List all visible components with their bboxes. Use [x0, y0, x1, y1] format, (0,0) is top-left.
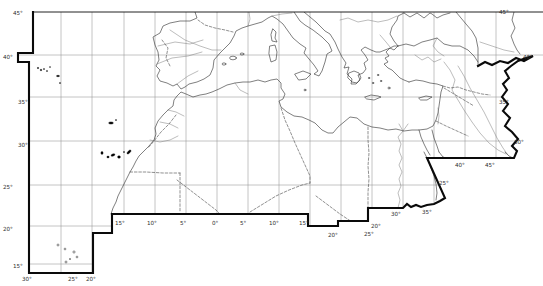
azores-island-2 [40, 69, 42, 71]
azores-island-1 [37, 67, 38, 68]
river-danube [340, 16, 397, 22]
canary-fuerteventura-lanzarote [126, 149, 131, 154]
atlantic-islands [37, 67, 131, 159]
lon-label-30e-egypt: 30° [391, 211, 401, 217]
lon-label-15w-south: 15° [115, 220, 125, 226]
cape-verde-5 [65, 261, 67, 263]
island-menorca [240, 53, 244, 55]
border-turkey-syria [443, 86, 490, 95]
river-kura [480, 42, 514, 52]
coastline-turkey-west [384, 46, 409, 82]
border-jordan-saudi [436, 121, 468, 136]
lat-label-20n-left: 20° [3, 226, 13, 232]
cape-verde-6 [70, 259, 71, 260]
river-jordan [438, 108, 439, 124]
river-morocco-2 [160, 122, 178, 128]
border-morocco-algeria [148, 115, 176, 148]
island-mallorca [230, 56, 237, 60]
lon-label-35e-egypt: 35° [422, 209, 432, 215]
map-boundary-outline [18, 12, 533, 273]
graticule-grid [0, 0, 543, 286]
geography [111, 12, 520, 214]
border-algeria-tunisia-libya [281, 108, 310, 183]
river-rhone [248, 12, 250, 26]
lon-label-25w-bottom: 25° [68, 276, 78, 282]
river-guadalquivir [177, 71, 198, 84]
coastline-black-sea-east [456, 12, 478, 66]
river-nile [398, 131, 403, 208]
lon-label-15e-south: 15° [299, 220, 309, 226]
map-frame [18, 12, 543, 273]
lon-label-40e-southeast: 40° [455, 162, 465, 168]
border-algeria-niger [250, 183, 310, 212]
lat-label-35n-left: 35° [18, 99, 28, 105]
island-cyprus [419, 96, 432, 100]
island-sicily [295, 71, 311, 80]
lat-label-40n-right: 40° [523, 54, 533, 60]
island-corsica [271, 29, 277, 42]
azores-island-7 [59, 82, 60, 83]
coastline-iberia-france-italy [153, 12, 332, 89]
lon-label-45e-southeast: 45° [485, 162, 495, 168]
border-libya-sudan-diagonal [316, 196, 352, 222]
lon-label-10e-south: 10° [269, 220, 279, 226]
lat-label-40n-left: 40° [3, 54, 13, 60]
cape-verde-2 [64, 248, 66, 250]
base-map: 45° 40° 35° 30° 25° 20° 15° 30° 25° 20° … [0, 0, 543, 286]
river-duero [158, 40, 203, 46]
porto-santo [115, 119, 116, 120]
coastline-black-sea-north [404, 13, 450, 18]
river-euphrates [444, 62, 506, 154]
azores-island-3 [43, 68, 44, 69]
coastline-adriatic-balkans [304, 12, 398, 84]
cape-verde-1 [57, 244, 59, 246]
river-anatolia-1 [415, 55, 441, 62]
coastline-caspian-west [511, 12, 520, 54]
lat-label-45n-topright: 45° [499, 9, 509, 15]
graticule-labels: 45° 40° 35° 30° 25° 20° 15° 30° 25° 20° … [3, 9, 533, 283]
azores-island-4 [46, 70, 47, 71]
island-sardinia [269, 45, 277, 62]
island-malta [304, 89, 306, 91]
coastline-black-sea-south [398, 38, 478, 62]
map-figure: 45° 40° 35° 30° 25° 20° 15° 30° 25° 20° … [0, 0, 543, 286]
lon-label-30w-bottom: 30° [22, 276, 32, 282]
river-tajo [157, 52, 202, 64]
island-rhodes [388, 87, 390, 89]
canary-tenerife [111, 153, 115, 156]
island-aegean-2 [372, 82, 373, 83]
river-kizilirmak [433, 38, 444, 56]
river-maritsa [380, 35, 390, 47]
canary-islet [123, 151, 124, 152]
canary-gomera-hierro [107, 156, 109, 158]
canary-gran-canaria [118, 156, 121, 158]
river-tigris [458, 66, 508, 155]
island-aegean-4 [380, 80, 381, 81]
cape-verde-4 [76, 256, 78, 258]
lat-label-45n-topleft: 45° [13, 10, 23, 16]
lon-label-20e-step: 20° [328, 232, 338, 238]
rivers [150, 12, 514, 208]
coastline-gulf-of-suez [419, 130, 430, 155]
lon-label-5e-south: 5° [240, 220, 247, 226]
canary-la-palma [101, 152, 103, 155]
island-aegean-1 [368, 77, 369, 78]
lat-label-15n-left: 15° [13, 263, 23, 269]
lon-label-20w-bottom: 20° [86, 276, 96, 282]
border-pyrenees [198, 20, 233, 32]
lon-label-5w-south: 5° [180, 220, 187, 226]
lon-label-0-south: 0° [212, 220, 219, 226]
island-aegean-3 [377, 74, 378, 75]
lat-label-30n-right: 30° [514, 139, 524, 145]
island-crete [365, 95, 381, 100]
madeira [109, 122, 114, 124]
river-algeria-1 [235, 83, 248, 94]
border-libya-egypt [368, 127, 369, 208]
river-po [272, 13, 292, 16]
lat-label-25n-left: 25° [3, 184, 13, 190]
river-ebro [170, 30, 221, 50]
azores-island-6 [56, 75, 59, 76]
cape-verde-islands [57, 244, 78, 263]
island-ibiza [222, 63, 226, 65]
river-nile-delta-east [403, 124, 408, 131]
